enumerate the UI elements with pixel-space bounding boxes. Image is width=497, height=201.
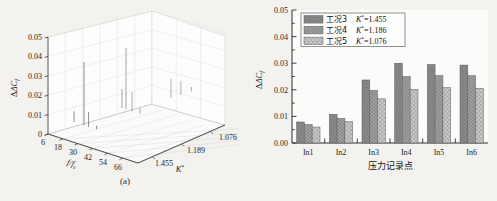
bar-In3-s3 — [378, 99, 386, 143]
panel-a-3d-plot: 0 0.01 0.02 0.03 0.04 0.05 ΔΔCf — [0, 0, 250, 201]
bar-In4-s1 — [395, 63, 403, 143]
z-axis-label: ΔΔCf — [9, 78, 20, 97]
z-label-main: ΔC — [9, 80, 19, 92]
z-label-sub: f — [14, 78, 20, 81]
bar-In5-s3 — [443, 88, 451, 143]
legend-label-math-0: K*=1.455 — [355, 14, 387, 24]
x-tick-2: 30 — [69, 148, 77, 157]
legend: 工况3 K*=1.455 工况4 K*=1.186 工况5 K*=1.076 — [301, 13, 405, 47]
legend-swatch-1 — [304, 26, 323, 34]
bar-In5-s2 — [435, 76, 443, 143]
x-cat-2: In3 — [368, 148, 379, 157]
y-tick-2: 0.02 — [274, 86, 288, 95]
legend-label-cjk-2: 工况5 — [326, 37, 347, 46]
legend-label-math-2: K*=1.076 — [355, 36, 387, 46]
x-axis-title: 压力记录点 — [368, 160, 413, 171]
y-axis-label: ΔΔCf — [254, 70, 265, 89]
legend-label-cjk-1: 工况4 — [326, 26, 347, 35]
y-label-main: ΔC — [254, 72, 264, 84]
y-tick-5: 0.05 — [274, 6, 288, 15]
y-tick-0: 0.00 — [274, 139, 288, 148]
svg-text:ΔΔCf: ΔΔCf — [9, 78, 20, 97]
bar-In3-s2 — [370, 90, 378, 143]
legend-item-0[interactable]: 工况3 K*=1.455 — [304, 14, 387, 24]
z-tick-2: 0.02 — [28, 91, 42, 100]
y-tick-2: 1.076 — [219, 133, 237, 142]
x-label-sub: s — [72, 164, 77, 171]
svg-text:ΔΔCf: ΔΔCf — [254, 70, 265, 89]
bar-In1-s1 — [297, 122, 305, 143]
x-tick-5: 66 — [114, 163, 122, 172]
y-tick-1: 0.01 — [274, 112, 288, 121]
panel-b-svg: 0.00 0.01 0.02 0.03 0.04 0.05 ΔΔCf — [250, 0, 497, 175]
bar-In3-s1 — [362, 80, 370, 143]
x-tick-labels: In1 In2 In3 In4 In5 In6 — [303, 148, 477, 157]
bar-In4-s3 — [410, 89, 418, 143]
y-tick-3: 0.03 — [274, 59, 288, 68]
x-cat-0: In1 — [303, 148, 314, 157]
bar-In2-s3 — [345, 121, 353, 143]
panel-a-svg: 0 0.01 0.02 0.03 0.04 0.05 ΔΔCf — [0, 0, 250, 175]
figure-container: 0 0.01 0.02 0.03 0.04 0.05 ΔΔCf — [0, 0, 497, 201]
x-cat-4: In5 — [434, 148, 445, 157]
bar-In6-s2 — [468, 76, 476, 143]
legend-item-1[interactable]: 工况4 K*=1.186 — [304, 25, 387, 35]
bar-In2-s1 — [329, 114, 337, 143]
svg-text:K*: K* — [175, 164, 185, 174]
y-tick-0: 1.455 — [155, 159, 173, 168]
bar-In6-s1 — [460, 65, 468, 143]
z-tick-4: 0.04 — [28, 52, 42, 61]
y-tick-4: 0.04 — [274, 33, 288, 42]
panel-b-bar-chart: 0.00 0.01 0.02 0.03 0.04 0.05 ΔΔCf — [250, 0, 497, 201]
z-axis: 0 0.01 0.02 0.03 0.04 0.05 — [28, 33, 48, 139]
y-label-sub: f — [259, 70, 265, 73]
x-cat-5: In6 — [466, 148, 477, 157]
legend-label-math-1: K*=1.186 — [355, 25, 387, 35]
x-cat-1: In2 — [336, 148, 347, 157]
y-tick-1: 1.189 — [187, 146, 205, 155]
x-tick-1: 18 — [54, 143, 62, 152]
bar-In1-s3 — [312, 127, 320, 143]
legend-item-2[interactable]: 工况5 K*=1.076 — [304, 36, 387, 46]
x-axis-label: f/fs — [66, 157, 79, 170]
y-axis-label: K* — [175, 164, 185, 174]
caption-a: (a) — [0, 176, 250, 186]
y-label-sup: * — [181, 164, 184, 170]
svg-text:f/fs: f/fs — [66, 157, 79, 170]
bar-In1-s2 — [304, 124, 312, 143]
x-tick-3: 42 — [84, 153, 92, 162]
bar-In6-s3 — [476, 88, 484, 143]
x-tick-4: 54 — [99, 158, 107, 167]
bar-In5-s1 — [427, 65, 435, 143]
legend-label-cjk-0: 工况3 — [326, 15, 347, 24]
z-tick-3: 0.03 — [28, 72, 42, 81]
x-tick-0: 6 — [41, 138, 45, 147]
z-tick-1: 0.01 — [28, 111, 42, 120]
bar-In2-s2 — [337, 118, 345, 143]
z-tick-5: 0.05 — [28, 33, 42, 42]
bar-In4-s2 — [402, 77, 410, 144]
legend-swatch-2 — [304, 37, 323, 45]
x-cat-3: In4 — [401, 148, 412, 157]
legend-swatch-0 — [304, 16, 323, 24]
